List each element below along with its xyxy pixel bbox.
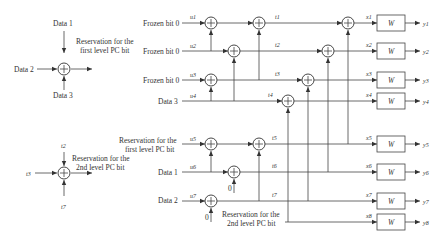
input-label-1: Frozen bit 0 bbox=[143, 19, 179, 28]
svg-text:u5: u5 bbox=[190, 136, 196, 142]
legend-top-output-line1: Reservation for the bbox=[76, 37, 134, 46]
input-label-7: Data 2 bbox=[158, 196, 178, 205]
legend-top-input-top: Data 1 bbox=[53, 19, 73, 28]
xor-icon bbox=[342, 17, 354, 29]
legend-top-output-line2: first level PC bit bbox=[80, 46, 130, 55]
xor-icon bbox=[205, 74, 217, 86]
svg-text:x3: x3 bbox=[365, 71, 372, 77]
input-label-5-line2: first level PC bit bbox=[125, 145, 175, 154]
xor-icon bbox=[205, 17, 217, 29]
svg-text:u4: u4 bbox=[190, 93, 196, 99]
svg-text:t3: t3 bbox=[275, 71, 280, 77]
u-labels: u1 u2 u3 u4 u5 u6 u7 bbox=[190, 14, 197, 199]
svg-text:W: W bbox=[388, 140, 395, 149]
svg-text:u2: u2 bbox=[190, 43, 196, 49]
svg-text:y1: y1 bbox=[422, 21, 429, 27]
xor-icon bbox=[205, 138, 217, 150]
wires bbox=[182, 23, 377, 222]
svg-text:W: W bbox=[388, 168, 395, 177]
channel-outputs: x1Wy1 x2Wy2 x3Wy3 x4Wy4 x5Wy5 x6Wy6 x7Wy… bbox=[365, 14, 430, 230]
xor-icon bbox=[228, 45, 240, 57]
svg-text:W: W bbox=[388, 218, 395, 227]
svg-text:t4: t4 bbox=[268, 92, 273, 98]
svg-text:y6: y6 bbox=[422, 170, 429, 176]
xor-icon bbox=[322, 45, 334, 57]
legend-top-input-left: Data 2 bbox=[14, 65, 34, 74]
input-label-5-line1: Reservation for the bbox=[119, 136, 177, 145]
input-label-8-line2: 2nd level PC bit bbox=[227, 219, 276, 228]
svg-text:x2: x2 bbox=[365, 42, 372, 48]
svg-text:y4: y4 bbox=[422, 99, 429, 105]
svg-text:t6: t6 bbox=[272, 163, 277, 169]
legend-bottom-output-line2: 2nd level PC bit bbox=[76, 163, 125, 172]
input-label-6: Data 1 bbox=[158, 168, 178, 177]
svg-text:y7: y7 bbox=[422, 199, 430, 205]
legend-bottom-input-bottom: t7 bbox=[61, 204, 67, 210]
svg-text:x6: x6 bbox=[365, 163, 372, 169]
zero-input-1: 0 bbox=[228, 184, 232, 193]
legend-bottom-output-line1: Reservation for the bbox=[72, 154, 130, 163]
svg-text:u6: u6 bbox=[190, 164, 196, 170]
svg-text:u7: u7 bbox=[190, 193, 197, 199]
input-label-4: Data 3 bbox=[158, 97, 178, 106]
svg-text:W: W bbox=[388, 76, 395, 85]
svg-text:y8: y8 bbox=[422, 220, 429, 226]
xor-icon bbox=[228, 166, 240, 178]
legend-top-input-bottom: Data 3 bbox=[53, 91, 73, 100]
xor-icon bbox=[282, 95, 294, 107]
t-labels: t1 t2 t3 t4 t5 t6 t7 bbox=[268, 14, 280, 198]
svg-text:t2: t2 bbox=[275, 42, 280, 48]
legend-bottom-input-left: t3 bbox=[26, 171, 31, 177]
svg-text:u3: u3 bbox=[190, 72, 196, 78]
xor-icon bbox=[205, 195, 217, 207]
legend-top-xor: Data 1 Data 2 Data 3 Reservation for the… bbox=[14, 19, 134, 100]
svg-text:W: W bbox=[388, 97, 395, 106]
xor-icon bbox=[302, 74, 314, 86]
legend-bottom-input-top: t2 bbox=[61, 143, 66, 149]
legend-bottom-xor: t2 t3 t7 Reservation for the 2nd level P… bbox=[26, 143, 130, 210]
svg-text:W: W bbox=[388, 47, 395, 56]
svg-text:y3: y3 bbox=[422, 78, 429, 84]
xor-icon bbox=[253, 17, 265, 29]
svg-text:W: W bbox=[388, 19, 395, 28]
input-label-3: Frozen bit 0 bbox=[143, 76, 179, 85]
svg-text:t7: t7 bbox=[272, 192, 278, 198]
svg-text:y2: y2 bbox=[422, 49, 429, 55]
zero-input-2: 0 bbox=[205, 213, 209, 222]
svg-text:x8: x8 bbox=[365, 213, 372, 219]
polar-encoder-diagram: Data 1 Data 2 Data 3 Reservation for the… bbox=[0, 0, 445, 246]
input-label-2: Frozen bit 0 bbox=[143, 47, 179, 56]
svg-text:x5: x5 bbox=[365, 135, 372, 141]
svg-text:x4: x4 bbox=[365, 92, 372, 98]
svg-text:t1: t1 bbox=[275, 14, 280, 20]
svg-text:t5: t5 bbox=[272, 135, 277, 141]
svg-text:W: W bbox=[388, 197, 395, 206]
input-labels: Frozen bit 0 Frozen bit 0 Frozen bit 0 D… bbox=[119, 19, 280, 228]
svg-text:x7: x7 bbox=[365, 192, 373, 198]
svg-text:y5: y5 bbox=[422, 142, 429, 148]
svg-text:x1: x1 bbox=[365, 14, 372, 20]
xor-icon bbox=[253, 138, 265, 150]
input-label-8-line1: Reservation for the bbox=[222, 210, 280, 219]
svg-text:u1: u1 bbox=[190, 14, 196, 20]
